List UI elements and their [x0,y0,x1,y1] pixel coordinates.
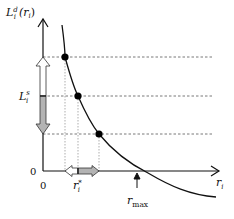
x-axis-label: ri [216,176,224,191]
rmax-arrowhead-icon [134,173,140,179]
point-lower [95,130,102,137]
down-arrow-icon [36,96,50,134]
horizontal-change-arrow [65,166,99,177]
rmax-pointer [134,173,140,188]
vertical-change-arrow [36,57,50,134]
y-tick-label-Ls: Lsi [18,89,30,105]
up-arrow-icon [36,57,50,96]
point-middle [74,92,81,99]
y-axis-label: Ldi(ri) [5,6,35,21]
demand-curve-diagram: Ldi(ri) Lsi 0 0 r*i rmax ri [0,0,234,219]
point-upper [61,53,68,60]
origin-y-label: 0 [30,166,36,177]
origin-x-label: 0 [40,180,46,191]
x-tick-label-rstar: r*i [73,179,82,194]
rmax-label: rmax [127,194,149,209]
right-arrow-icon [78,166,99,177]
left-arrow-icon [65,166,78,177]
